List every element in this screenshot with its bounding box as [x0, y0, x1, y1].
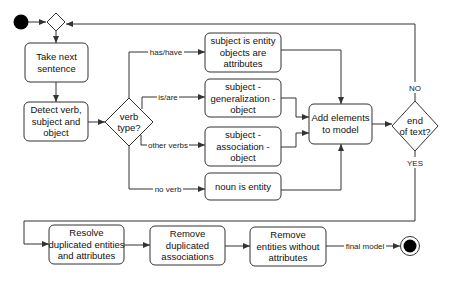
svg-text:association -: association -	[216, 141, 269, 152]
label-no-verb: no verb	[155, 185, 182, 194]
node-remove-entities-without-attributes: Remove entities without attributes	[250, 227, 326, 266]
node-take-next-sentence: Take next sentence	[25, 43, 88, 82]
svg-text:to model: to model	[322, 124, 358, 135]
svg-text:subject and: subject and	[32, 116, 81, 127]
svg-text:Remove: Remove	[270, 229, 305, 240]
svg-text:duplicated entities: duplicated entities	[48, 239, 124, 250]
svg-text:sentence: sentence	[37, 63, 76, 74]
svg-text:Remove: Remove	[170, 228, 205, 239]
node-remove-duplicated-associations: Remove duplicated associations	[150, 226, 225, 265]
svg-text:Detect verb,: Detect verb,	[30, 104, 81, 115]
activity-diagram: has/have is/are other verbs no verb NO Y…	[0, 0, 450, 284]
node-noun-is-entity: noun is entity	[205, 173, 281, 200]
svg-text:subject is entity: subject is entity	[211, 35, 276, 46]
svg-text:Add elements: Add elements	[311, 112, 369, 123]
edge-no-verb	[129, 146, 205, 189]
label-no: NO	[409, 84, 421, 93]
edge-labels: has/have is/are other verbs no verb NO Y…	[147, 46, 425, 251]
final-node	[401, 237, 420, 256]
svg-text:attributes: attributes	[268, 252, 307, 263]
node-resolve-duplicated-entities: Resolve duplicated entities and attribut…	[48, 225, 124, 264]
decision-verb-type: verb type?	[105, 98, 153, 146]
svg-text:subject -: subject -	[225, 129, 261, 140]
node-add-elements-to-model: Add elements to model	[309, 104, 372, 144]
svg-text:and attributes: and attributes	[58, 250, 116, 261]
label-has-have: has/have	[150, 48, 183, 57]
svg-text:Take next: Take next	[36, 51, 77, 62]
node-subject-generalization-object: subject - generalization - object	[205, 79, 281, 117]
edge-generalization-to-add	[281, 98, 309, 117]
decision-end-of-text: end of text?	[392, 101, 438, 151]
svg-text:object: object	[230, 104, 256, 115]
svg-text:entities without: entities without	[257, 241, 320, 252]
svg-text:associations: associations	[161, 251, 214, 262]
label-yes: YES	[407, 159, 423, 168]
svg-text:type?: type?	[117, 122, 140, 133]
label-other-verbs: other verbs	[148, 141, 188, 150]
svg-text:of text?: of text?	[399, 126, 430, 137]
edge-noun-entity-to-add	[281, 144, 341, 190]
svg-text:end: end	[407, 115, 423, 126]
svg-text:noun is entity: noun is entity	[215, 181, 271, 192]
svg-text:Resolve: Resolve	[69, 227, 103, 238]
node-subject-association-object: subject - association - object	[205, 127, 281, 166]
svg-text:duplicated: duplicated	[166, 240, 209, 251]
label-final-model: final model	[346, 242, 385, 251]
svg-text:attributes: attributes	[223, 58, 262, 69]
svg-text:object: object	[230, 152, 256, 163]
svg-text:objects are: objects are	[220, 47, 266, 58]
svg-text:generalization -: generalization -	[211, 93, 276, 104]
svg-text:subject -: subject -	[225, 81, 261, 92]
svg-text:verb: verb	[120, 111, 138, 122]
node-subject-is-entity: subject is entity objects are attributes	[205, 33, 281, 72]
merge-node	[47, 13, 65, 31]
edge-association-to-add	[281, 133, 309, 147]
svg-text:object: object	[43, 127, 69, 138]
node-detect-verb: Detect verb, subject and object	[24, 102, 88, 141]
initial-node	[14, 15, 29, 30]
label-is-are: is/are	[158, 93, 178, 102]
edge-entity-attr-to-add	[281, 50, 341, 104]
